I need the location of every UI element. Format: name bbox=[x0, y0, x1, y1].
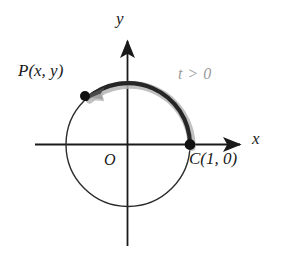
origin-label: O bbox=[104, 152, 116, 168]
point-p-dot bbox=[80, 91, 90, 101]
figure-canvas bbox=[0, 0, 284, 264]
point-p-label: P(x, y) bbox=[18, 62, 63, 79]
y-axis-label: y bbox=[116, 10, 124, 27]
arc-parameter-label: t > 0 bbox=[178, 66, 212, 82]
arc-highlight-glow bbox=[90, 85, 192, 147]
x-axis-label: x bbox=[252, 130, 260, 147]
unit-circle-figure: y x O P(x, y) C(1, 0) t > 0 bbox=[0, 0, 284, 264]
point-c-label: C(1, 0) bbox=[189, 150, 237, 167]
